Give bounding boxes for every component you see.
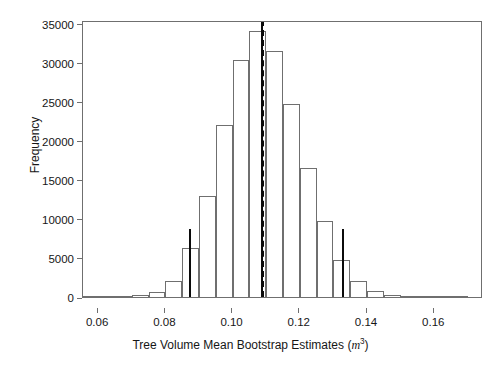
y-tick-label: 5000: [48, 251, 74, 267]
y-tick-label: 30000: [42, 56, 74, 72]
x-tick-label: 0.06: [73, 316, 121, 328]
x-axis-title: Tree Volume Mean Bootstrap Estimates (m3…: [0, 338, 501, 353]
histogram-bar: [266, 51, 283, 297]
y-tick-label: 20000: [42, 134, 74, 150]
y-tick-label: 10000: [42, 212, 74, 228]
lower-ci-line: [189, 229, 191, 297]
histogram-bar: [182, 248, 199, 297]
histogram-bar: [216, 125, 233, 297]
x-tick-mark: [366, 308, 367, 313]
y-tick-label: 25000: [42, 95, 74, 111]
x-tick-label: 0.10: [208, 316, 256, 328]
histogram-bar: [417, 296, 434, 297]
x-axis-title-text: Tree Volume Mean Bootstrap Estimates: [132, 338, 344, 352]
histogram-bar: [283, 104, 300, 298]
y-axis-title: Frequency: [28, 65, 42, 225]
histogram-bar: [149, 292, 166, 297]
x-tick-mark: [164, 308, 165, 313]
histogram-bar: [115, 296, 132, 297]
x-tick-label: 0.14: [342, 316, 390, 328]
plot-area: [83, 22, 481, 297]
histogram-bar: [98, 296, 115, 297]
histogram-bar: [132, 295, 149, 297]
histogram-bar: [83, 296, 98, 297]
histogram-bar: [451, 296, 468, 297]
x-axis-unit-exponent: 3: [360, 337, 365, 346]
histogram-bar: [233, 60, 250, 297]
histogram-figure: 05000100001500020000250003000035000 Freq…: [0, 0, 501, 368]
histogram-bar: [434, 296, 451, 297]
histogram-bar: [300, 168, 317, 297]
histogram-bar: [165, 281, 182, 297]
x-axis-unit: (m3): [344, 338, 369, 352]
x-tick-mark: [433, 308, 434, 313]
histogram-bar: [401, 296, 418, 297]
upper-ci-line: [342, 229, 344, 297]
x-axis-unit-symbol: m: [351, 338, 360, 352]
x-tick-label: 0.12: [275, 316, 323, 328]
y-tick-label: 35000: [42, 17, 74, 33]
histogram-bar: [350, 281, 367, 297]
x-tick-label: 0.08: [140, 316, 188, 328]
plot-frame: [82, 21, 482, 298]
histogram-bar: [367, 291, 384, 297]
x-tick-mark: [97, 308, 98, 313]
histogram-bar: [199, 196, 216, 297]
mean-line-dashed: [262, 22, 264, 297]
histogram-bar: [384, 295, 401, 297]
x-tick-mark: [231, 308, 232, 313]
y-tick-label: 15000: [42, 173, 74, 189]
histogram-bar: [317, 221, 334, 297]
x-tick-label: 0.16: [409, 316, 457, 328]
x-tick-mark: [298, 308, 299, 313]
